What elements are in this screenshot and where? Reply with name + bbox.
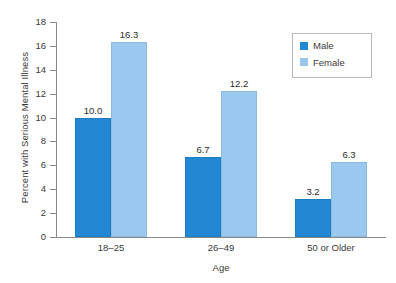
bar-male-0: [75, 118, 111, 237]
bar-male-2: [295, 199, 331, 237]
bar-female-2: [331, 162, 367, 237]
legend-swatch-icon: [300, 58, 308, 66]
y-axis-tick-label: 6: [41, 159, 46, 170]
legend-label: Male: [313, 41, 334, 51]
legend-item-female[interactable]: Female: [300, 58, 371, 68]
bar-value-label: 3.2: [289, 186, 337, 197]
bar-female-0: [111, 42, 147, 237]
y-axis-tick-label: 12: [35, 88, 46, 99]
y-axis-tick-label: 14: [35, 64, 46, 75]
x-axis-tick-label: 50 or Older: [281, 242, 381, 253]
y-axis-tick-label: 4: [41, 183, 46, 194]
bar-value-label: 6.7: [179, 144, 227, 155]
x-axis-tick-label: 18–25: [61, 242, 161, 253]
x-axis-tick-label: 26–49: [171, 242, 271, 253]
y-axis-tick-label: 10: [35, 112, 46, 123]
bar-male-1: [185, 157, 221, 237]
y-axis-tick: 0: [50, 237, 56, 238]
bar-value-label: 10.0: [69, 105, 117, 116]
bar-chart: Percent with Serious Mental Illness 0246…: [0, 0, 396, 283]
y-axis-title: Percent with Serious Mental Illness: [19, 28, 30, 228]
legend-swatch-icon: [300, 42, 308, 50]
y-axis-tick-label: 18: [35, 16, 46, 27]
bar-female-1: [221, 91, 257, 237]
legend-label: Female: [313, 58, 345, 68]
legend-item-male[interactable]: Male: [300, 41, 371, 51]
x-axis-line: [56, 237, 386, 238]
y-axis-tick-label: 0: [41, 231, 46, 242]
x-axis-title: Age: [56, 262, 386, 273]
bar-value-label: 12.2: [215, 78, 263, 89]
y-axis-tick-label: 8: [41, 135, 46, 146]
y-axis-tick-label: 16: [35, 40, 46, 51]
bar-value-label: 6.3: [325, 149, 373, 160]
legend: MaleFemale: [292, 33, 372, 78]
y-axis-tick-label: 2: [41, 207, 46, 218]
bar-value-label: 16.3: [105, 29, 153, 40]
